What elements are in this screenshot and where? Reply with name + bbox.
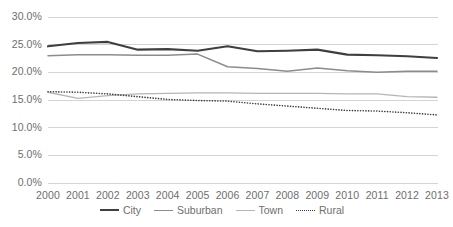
legend-label: Suburban <box>177 205 223 216</box>
x-tick-label: 2004 <box>152 189 184 201</box>
legend-label: Rural <box>319 205 344 216</box>
legend-swatch-icon <box>296 210 315 211</box>
y-tick-label: 0.0% <box>0 176 42 188</box>
x-tick-label: 2012 <box>391 189 423 201</box>
series-line-suburban <box>48 54 437 72</box>
x-tick-label: 2003 <box>122 189 154 201</box>
x-tick-label: 2001 <box>62 189 94 201</box>
y-tick-label: 20.0% <box>0 65 42 77</box>
legend-swatch-icon <box>100 209 119 211</box>
y-tick-label: 25.0% <box>0 38 42 50</box>
y-tick-label: 5.0% <box>0 148 42 160</box>
x-tick-label: 2011 <box>361 189 393 201</box>
legend-item-city[interactable]: City <box>100 205 141 216</box>
x-tick-label: 2000 <box>32 189 64 201</box>
x-tick-label: 2009 <box>301 189 333 201</box>
x-tick-label: 2002 <box>92 189 124 201</box>
x-tick-label: 2005 <box>182 189 214 201</box>
legend-swatch-icon <box>236 210 255 211</box>
legend-label: City <box>123 205 141 216</box>
legend-item-suburban[interactable]: Suburban <box>154 205 223 216</box>
legend-item-rural[interactable]: Rural <box>296 205 344 216</box>
x-tick-label: 2006 <box>212 189 244 201</box>
series-line-town <box>48 92 437 98</box>
legend-label: Town <box>259 205 284 216</box>
series-lines <box>48 42 437 115</box>
legend-swatch-icon <box>154 210 173 211</box>
x-tick-label: 2008 <box>271 189 303 201</box>
y-tick-label: 15.0% <box>0 93 42 105</box>
x-tick-label: 2010 <box>331 189 363 201</box>
x-tick-label: 2007 <box>241 189 273 201</box>
legend-item-town[interactable]: Town <box>236 205 284 216</box>
y-tick-label: 30.0% <box>0 10 42 22</box>
chart-legend: CitySuburbanTownRural <box>0 205 444 216</box>
x-tick-label: 2013 <box>421 189 453 201</box>
y-tick-label: 10.0% <box>0 121 42 133</box>
